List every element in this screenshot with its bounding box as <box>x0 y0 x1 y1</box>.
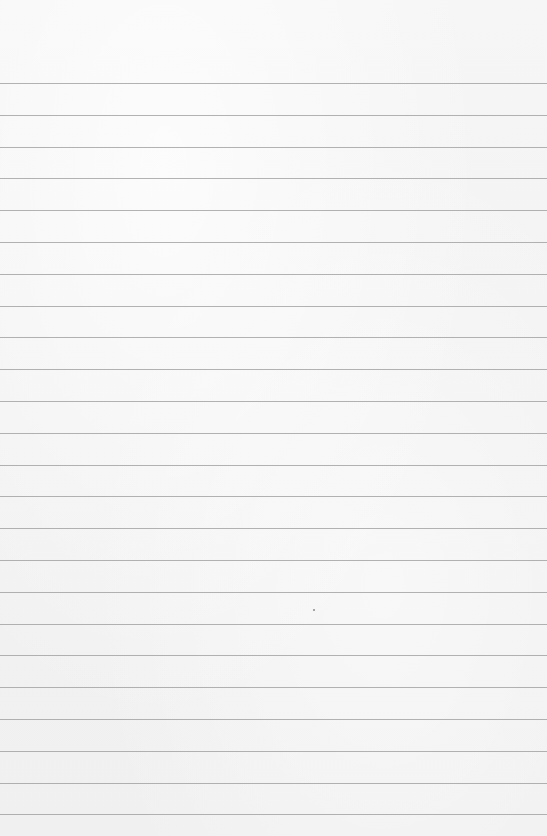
ruled-line <box>0 465 547 466</box>
lined-paper <box>0 0 547 836</box>
ruled-line <box>0 115 547 116</box>
ruled-line <box>0 783 547 784</box>
paper-speck <box>313 609 315 611</box>
ruled-line <box>0 401 547 402</box>
ruled-line <box>0 147 547 148</box>
ruled-line <box>0 337 547 338</box>
ruled-line <box>0 560 547 561</box>
ruled-line <box>0 210 547 211</box>
ruled-line <box>0 687 547 688</box>
ruled-line <box>0 83 547 84</box>
ruled-line <box>0 242 547 243</box>
ruled-line <box>0 655 547 656</box>
ruled-line <box>0 751 547 752</box>
ruled-line <box>0 369 547 370</box>
ruled-line <box>0 624 547 625</box>
ruled-line <box>0 592 547 593</box>
ruled-line <box>0 433 547 434</box>
ruled-line <box>0 719 547 720</box>
ruled-line <box>0 814 547 815</box>
ruled-line <box>0 528 547 529</box>
ruled-line <box>0 178 547 179</box>
ruled-line <box>0 496 547 497</box>
ruled-line <box>0 274 547 275</box>
ruled-line <box>0 306 547 307</box>
